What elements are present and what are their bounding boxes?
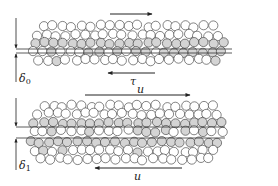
white-particle	[159, 154, 168, 163]
gray-particle	[211, 56, 220, 65]
white-particle	[202, 55, 211, 64]
white-particle	[96, 20, 105, 29]
white-particle	[123, 145, 132, 154]
gray-particle	[172, 39, 181, 48]
gray-particle	[104, 118, 113, 127]
white-particle	[178, 155, 187, 164]
gray-particle	[142, 118, 151, 127]
gray-particle	[152, 38, 161, 47]
white-particle	[169, 127, 178, 136]
white-particle	[113, 127, 122, 136]
white-particle	[39, 22, 48, 31]
bottom-particle-layer	[26, 100, 227, 165]
white-particle	[108, 55, 117, 64]
white-particle	[202, 109, 211, 118]
gray-particle	[198, 118, 207, 127]
white-particle	[67, 100, 76, 109]
white-particle	[38, 127, 47, 136]
white-particle	[117, 30, 126, 39]
white-particle	[132, 100, 141, 109]
white-particle	[167, 155, 176, 164]
white-particle	[36, 154, 45, 163]
white-particle	[190, 102, 199, 111]
gray-particle	[217, 118, 226, 127]
white-particle	[81, 30, 90, 39]
gray-particle	[175, 138, 184, 147]
white-particle	[117, 108, 126, 117]
white-particle	[128, 109, 137, 118]
white-particle	[165, 30, 174, 39]
white-particle	[124, 21, 133, 30]
delta0-symbol: δ	[19, 72, 26, 85]
white-particle	[187, 155, 196, 164]
gray-particle	[49, 117, 58, 126]
white-particle	[208, 101, 217, 110]
gray-particle	[114, 118, 123, 127]
delta0-subscript: 0	[26, 77, 31, 86]
white-particle	[60, 55, 69, 64]
white-particle	[98, 30, 107, 39]
white-particle	[209, 145, 218, 154]
gray-particle	[142, 127, 151, 136]
delta1-subscript: 1	[26, 164, 31, 173]
gray-particle	[181, 126, 190, 135]
white-particle	[86, 145, 95, 154]
white-particle	[185, 29, 194, 38]
white-particle	[114, 147, 123, 156]
white-particle	[81, 54, 90, 63]
gray-particle	[199, 127, 208, 136]
white-particle	[151, 100, 160, 109]
white-particle	[142, 101, 151, 110]
gray-particle	[167, 137, 176, 146]
gray-particle	[151, 128, 160, 137]
gray-particle	[96, 38, 105, 47]
white-particle	[146, 57, 155, 66]
u-bottom-label: u	[134, 171, 141, 182]
white-particle	[106, 100, 115, 109]
white-particle	[137, 156, 146, 165]
gray-particle	[105, 39, 114, 48]
white-particle	[28, 47, 37, 56]
white-particle	[198, 145, 207, 154]
white-particle	[67, 127, 76, 136]
white-particle	[132, 20, 141, 29]
white-particle	[199, 21, 208, 30]
gray-particle	[62, 138, 71, 147]
white-particle	[92, 154, 101, 163]
white-particle	[138, 54, 147, 63]
white-particle	[83, 154, 92, 163]
white-particle	[95, 145, 104, 154]
white-particle	[34, 56, 43, 65]
gray-particle	[49, 38, 58, 47]
white-particle	[115, 20, 124, 29]
white-particle	[122, 47, 131, 56]
white-particle	[105, 21, 114, 30]
white-particle	[151, 21, 160, 30]
u-top-label: u	[137, 84, 144, 95]
white-particle	[58, 21, 67, 30]
white-particle	[106, 145, 115, 154]
white-particle	[66, 47, 75, 56]
white-particle	[90, 55, 99, 64]
white-particle	[149, 154, 158, 163]
white-particle	[164, 110, 173, 119]
gray-particle	[58, 38, 67, 47]
white-particle	[154, 54, 163, 63]
gray-particle	[85, 127, 94, 136]
white-particle	[160, 146, 169, 155]
white-particle	[44, 108, 53, 117]
white-particle	[77, 145, 86, 154]
white-particle	[207, 127, 216, 136]
white-particle	[204, 153, 213, 162]
white-particle	[71, 30, 80, 39]
gray-particle	[45, 138, 54, 147]
gray-particle	[125, 38, 134, 47]
gray-particle	[131, 47, 140, 56]
gray-particle	[138, 138, 147, 147]
white-particle	[33, 110, 42, 119]
white-particle	[129, 56, 138, 65]
white-particle	[73, 56, 82, 65]
white-particle	[69, 146, 78, 155]
white-particle	[109, 29, 118, 38]
white-particle	[174, 30, 183, 39]
